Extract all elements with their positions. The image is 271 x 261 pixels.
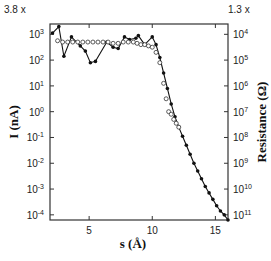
y2-tick-label: 108 xyxy=(233,131,248,143)
filled-marker xyxy=(211,198,215,202)
open-marker xyxy=(96,40,100,44)
data-series xyxy=(51,25,230,222)
y-tick-label: 10-3 xyxy=(27,183,44,195)
y2-tick-label: 104 xyxy=(233,28,248,40)
filled-marker xyxy=(137,34,141,38)
y2-axis-title: Resistance (Ω) xyxy=(254,82,269,163)
filled-marker xyxy=(203,185,207,189)
x-tick-label: 5 xyxy=(86,225,92,236)
filled-marker xyxy=(84,49,88,53)
filled-marker xyxy=(150,35,154,39)
open-marker xyxy=(154,50,158,54)
open-marker xyxy=(169,112,173,116)
open-marker xyxy=(106,40,110,44)
plot-border xyxy=(50,24,228,220)
x-axis-ticks: 51015 xyxy=(86,24,221,236)
filled-marker xyxy=(70,35,74,39)
filled-marker xyxy=(219,209,223,213)
y-axis-title: I (nA) xyxy=(6,105,21,139)
filled-marker xyxy=(57,25,61,29)
open-marker xyxy=(116,41,120,45)
y-tick-label: 10-1 xyxy=(27,131,44,143)
x-tick-label: 15 xyxy=(210,225,222,236)
chart: 51015 10310210110010-110-210-310-4 10410… xyxy=(0,0,271,261)
filled-marker xyxy=(226,218,230,222)
filled-marker xyxy=(200,177,204,181)
filled-marker xyxy=(62,54,66,58)
y2-tick-label: 105 xyxy=(233,54,248,66)
filled-marker xyxy=(78,44,82,48)
filled-marker xyxy=(111,45,115,49)
filled-marker xyxy=(215,204,219,208)
filled-marker xyxy=(154,43,158,47)
y-tick-label: 103 xyxy=(29,28,44,40)
open-marker xyxy=(56,39,60,43)
open-marker xyxy=(172,117,176,121)
y-tick-label: 10-2 xyxy=(27,157,44,169)
y2-tick-label: 106 xyxy=(233,80,248,92)
filled-marker xyxy=(116,47,120,51)
filled-marker xyxy=(123,35,127,39)
open-marker xyxy=(177,125,181,129)
filled-marker xyxy=(188,152,192,156)
y2-tick-label: 109 xyxy=(233,157,248,169)
filled-marker xyxy=(162,71,166,75)
filled-marker xyxy=(134,36,138,40)
open-marker xyxy=(76,40,80,44)
y-tick-label: 101 xyxy=(29,80,44,92)
open-marker xyxy=(81,40,85,44)
open-marker xyxy=(164,97,168,101)
open-marker xyxy=(126,40,130,44)
open-marker xyxy=(174,121,178,125)
x-axis-title: s (Å) xyxy=(120,236,146,251)
y-tick-label: 10-4 xyxy=(27,209,44,221)
y2-tick-label: 107 xyxy=(233,106,248,118)
filled-marker xyxy=(94,60,98,64)
y2-scale-note: 1.3 x xyxy=(228,4,250,15)
filled-marker xyxy=(181,134,185,138)
x-tick-label: 10 xyxy=(147,225,159,236)
open-marker xyxy=(91,40,95,44)
filled-marker xyxy=(166,87,170,91)
series-line xyxy=(53,27,228,220)
open-marker xyxy=(101,40,105,44)
open-marker xyxy=(71,40,75,44)
y2-tick-label: 1011 xyxy=(233,209,251,221)
filled-marker xyxy=(196,169,200,173)
filled-marker xyxy=(207,191,211,195)
y-scale-note: 3.8 x xyxy=(4,4,26,15)
filled-marker xyxy=(158,56,162,60)
y-tick-label: 100 xyxy=(29,106,44,118)
open-marker xyxy=(66,40,70,44)
filled-marker xyxy=(185,143,189,147)
filled-marker xyxy=(169,102,173,106)
filled-marker xyxy=(51,31,55,35)
filled-marker xyxy=(222,213,226,217)
open-marker xyxy=(158,61,162,65)
filled-marker xyxy=(89,61,93,65)
filled-marker xyxy=(192,161,196,165)
open-marker xyxy=(150,45,154,49)
y2-tick-label: 1010 xyxy=(233,183,252,195)
open-marker xyxy=(61,40,65,44)
open-marker xyxy=(86,40,90,44)
open-marker xyxy=(162,81,166,85)
y-tick-label: 102 xyxy=(29,54,44,66)
open-marker xyxy=(121,40,125,44)
plot-frame xyxy=(50,24,228,220)
open-marker xyxy=(111,41,115,45)
